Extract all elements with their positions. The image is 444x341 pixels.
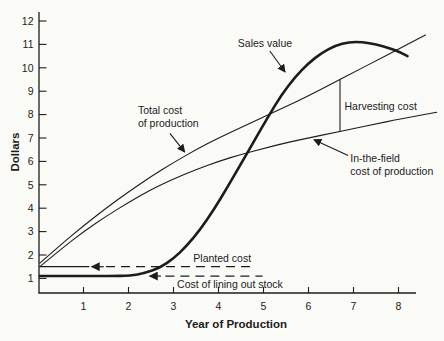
figure-page: 12345678910111212345678Sales valueTotal … — [0, 0, 444, 341]
y-tick-label: 11 — [23, 38, 34, 50]
planted-cost-label: Planted cost — [193, 252, 251, 264]
curve-total-cost-of-production — [40, 35, 426, 263]
y-tick-label: 3 — [28, 225, 34, 237]
y-tick-label: 12 — [22, 15, 34, 27]
y-tick-label: 9 — [28, 85, 34, 97]
x-tick-label: 7 — [351, 300, 357, 312]
curve-in-the-field-cost-of-production — [40, 112, 437, 266]
x-axis-title: Year of Production — [185, 318, 287, 330]
x-tick-label: 1 — [81, 300, 87, 312]
in-the-field-label-pointer-arrow-icon — [314, 140, 348, 156]
harvesting-cost-label: Harvesting cost — [345, 100, 417, 112]
total-cost-label-pointer-arrow-icon — [170, 133, 185, 152]
x-tick-label: 3 — [171, 300, 177, 312]
y-axis-title: Dollars — [9, 133, 21, 172]
sales-value-label-pointer-arrow-icon — [270, 51, 285, 72]
x-tick-label: 4 — [216, 300, 222, 312]
sales-value-label: Sales value — [238, 37, 292, 49]
x-tick-label: 2 — [126, 300, 132, 312]
x-tick-label: 5 — [261, 300, 267, 312]
lining-cost-label: Cost of lining out stock — [177, 278, 283, 290]
y-tick-label: 2 — [28, 249, 34, 261]
y-tick-label: 10 — [22, 62, 34, 74]
y-tick-label: 7 — [28, 132, 34, 144]
x-tick-label: 6 — [306, 300, 312, 312]
y-tick-label: 8 — [28, 108, 34, 120]
in-the-field-label: In-the-fieldcost of production — [350, 152, 433, 177]
y-tick-label: 1 — [28, 272, 34, 284]
total-cost-label: Total costof production — [138, 104, 199, 129]
y-tick-label: 6 — [28, 155, 34, 167]
chart-canvas: 12345678910111212345678Sales valueTotal … — [0, 0, 444, 341]
y-tick-label: 5 — [28, 179, 34, 191]
x-tick-label: 8 — [396, 300, 402, 312]
y-tick-label: 4 — [28, 202, 34, 214]
